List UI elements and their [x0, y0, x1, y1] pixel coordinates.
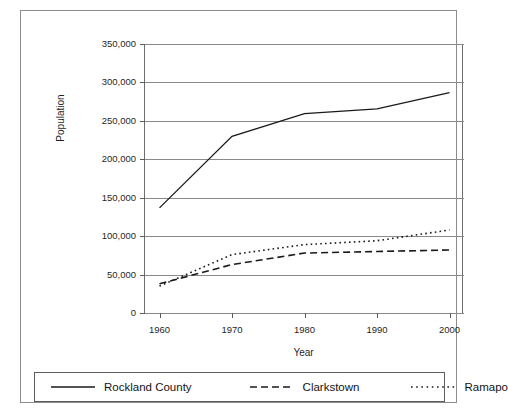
y-axis-title: Population — [55, 73, 66, 163]
x-axis-tick — [377, 313, 378, 318]
series-line-ramapo — [160, 230, 450, 286]
y-axis-tick-label: 50,000 — [107, 270, 136, 280]
x-axis-tick-label: 1960 — [149, 325, 170, 335]
chart-legend: Rockland County Clarkstown Ramapo — [34, 372, 445, 402]
y-axis-tick-label: 150,000 — [102, 193, 136, 203]
series-line-clarkstown — [160, 250, 450, 284]
x-axis-tick-label: 1990 — [366, 325, 387, 335]
x-axis-tick — [232, 313, 233, 318]
y-axis-tick — [140, 313, 145, 314]
legend-item-ramapo: Ramapo — [411, 381, 507, 393]
y-axis-tick-label: 200,000 — [102, 155, 136, 165]
legend-swatch-solid-line-icon — [51, 382, 95, 392]
legend-label-clarkstown: Clarkstown — [303, 381, 360, 393]
y-axis-tick-label: 250,000 — [102, 116, 136, 126]
legend-item-rockland-county: Rockland County — [51, 381, 192, 393]
x-axis-tick — [305, 313, 306, 318]
y-axis-tick-label: 350,000 — [102, 39, 136, 49]
x-axis-tick — [160, 313, 161, 318]
series-layer — [145, 44, 464, 313]
x-axis-tick — [450, 313, 451, 318]
plot-area: 050,000100,000150,000200,000250,000300,0… — [144, 44, 463, 313]
figure-frame: Population 050,000100,000150,000200,0002… — [20, 10, 457, 403]
legend-swatch-dashed-line-icon — [250, 382, 294, 392]
legend-swatch-dotted-line-icon — [411, 382, 455, 392]
x-axis-tick-label: 2000 — [439, 325, 460, 335]
x-axis-tick-label: 1980 — [294, 325, 315, 335]
legend-label-ramapo: Ramapo — [464, 381, 507, 393]
legend-item-clarkstown: Clarkstown — [250, 381, 360, 393]
series-line-rockland-county — [160, 93, 450, 208]
y-axis-tick-label: 0 — [131, 308, 136, 318]
x-axis-title: Year — [144, 347, 463, 358]
x-axis-tick-label: 1970 — [221, 325, 242, 335]
y-axis-tick-label: 100,000 — [102, 231, 136, 241]
legend-label-rockland-county: Rockland County — [104, 381, 192, 393]
y-axis-tick-label: 300,000 — [102, 78, 136, 88]
